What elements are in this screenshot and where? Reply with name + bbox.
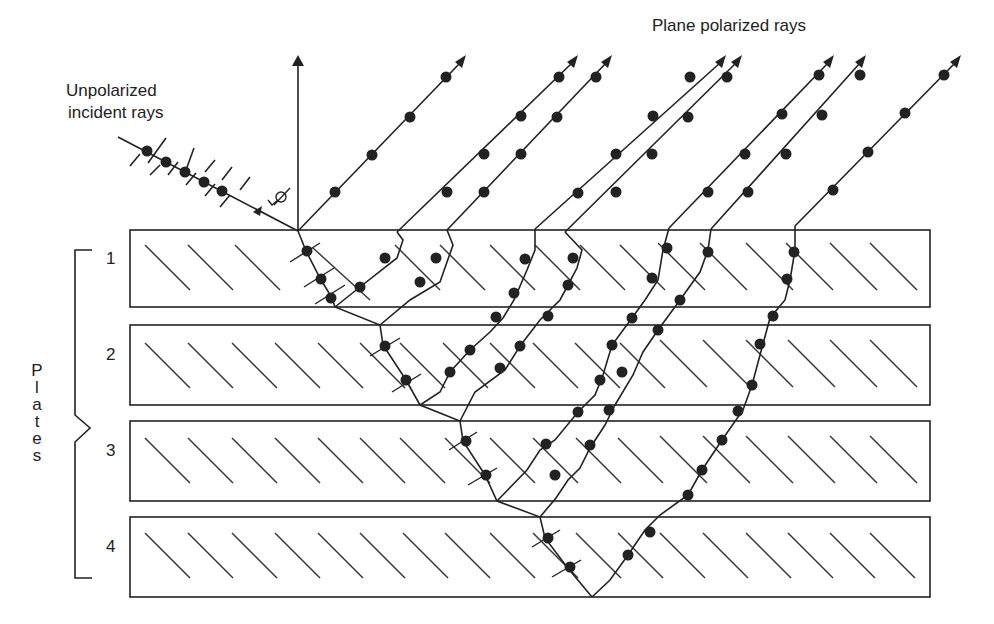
plate-number-1: 1: [106, 249, 115, 269]
plates-letter-s: s: [30, 447, 44, 464]
plate-3: [130, 421, 930, 501]
reflected-ray-dots: [330, 70, 950, 199]
main-path-dashes: [290, 243, 581, 577]
title-plane-polarized-rays: Plane polarized rays: [652, 16, 806, 36]
label-incident-rays: incident rays: [68, 103, 163, 123]
plates-letter-t: t: [30, 413, 44, 430]
plates-bracket: [75, 250, 92, 578]
label-unpolarized: Unpolarized: [66, 81, 157, 101]
plate-number-4: 4: [106, 537, 115, 557]
plates-letter-l: l: [30, 379, 44, 396]
plate-2: [130, 325, 930, 405]
plates-letter-p: P: [30, 362, 44, 379]
plate-number-3: 3: [106, 441, 115, 461]
plate-hatching: [145, 243, 917, 578]
angle-marker: [268, 188, 290, 205]
plate-1: [130, 230, 930, 307]
arrowheads: [455, 55, 961, 68]
reflected-rays: [298, 63, 955, 232]
plate-number-2: 2: [106, 345, 115, 365]
internal-path-dots: [355, 243, 800, 561]
incident-ray-dots: [142, 146, 263, 217]
plates-letter-a: a: [30, 396, 44, 413]
plate-4: [130, 517, 930, 597]
plates-letter-e: e: [30, 430, 44, 447]
main-path-dots: [302, 246, 576, 573]
surface-normal: [292, 55, 304, 231]
